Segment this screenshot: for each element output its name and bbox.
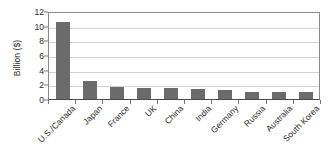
bar[interactable] [56, 22, 70, 99]
x-axis-tick-labels: U.S./CanadaJapanFranceUKChinaIndiaGerman… [48, 104, 320, 162]
y-axis-tick-label: 8 [24, 37, 44, 45]
bar-slot [76, 13, 103, 99]
y-axis-tick-labels: 121086420 [24, 12, 44, 100]
y-axis-tick-label: 6 [24, 52, 44, 60]
bar-slot [49, 13, 76, 99]
x-axis-tick-label: India [194, 104, 213, 123]
bar[interactable] [272, 92, 286, 99]
bar-slot [157, 13, 184, 99]
bar-slot [130, 13, 157, 99]
bar[interactable] [191, 89, 205, 99]
x-axis-tick-mark [320, 100, 321, 104]
bar-slot [238, 13, 265, 99]
bars-group [49, 13, 319, 99]
x-axis-tick-label: China [164, 104, 186, 126]
bar-slot [103, 13, 130, 99]
bar-slot [184, 13, 211, 99]
y-axis-title: Billion ($) [9, 14, 25, 102]
y-axis-title-label: Billion ($) [12, 40, 22, 77]
bar[interactable] [218, 90, 232, 99]
y-axis-tick-label: 0 [24, 96, 44, 104]
x-axis-tick-label: Germany [209, 104, 240, 135]
x-axis-tick-label: UK [144, 104, 159, 119]
bar[interactable] [164, 88, 178, 99]
bar[interactable] [299, 92, 313, 99]
bar-slot [265, 13, 292, 99]
bar-slot [292, 13, 319, 99]
y-axis-tick-label: 10 [24, 23, 44, 31]
x-axis-tick-label: France [106, 104, 131, 129]
plot-area [48, 12, 320, 100]
bar[interactable] [245, 92, 259, 99]
x-axis-tick-label: Japan [81, 104, 104, 127]
bar[interactable] [137, 88, 151, 99]
x-axis-tick-label: U.S./Canada [36, 104, 77, 145]
bar[interactable] [83, 81, 97, 99]
y-axis-tick-label: 2 [24, 81, 44, 89]
bar-chart: Billion ($) 121086420 U.S./CanadaJapanFr… [0, 0, 336, 165]
bar[interactable] [110, 87, 124, 99]
y-axis-tick-label: 12 [24, 8, 44, 16]
y-axis-tick-label: 4 [24, 67, 44, 75]
bar-slot [211, 13, 238, 99]
